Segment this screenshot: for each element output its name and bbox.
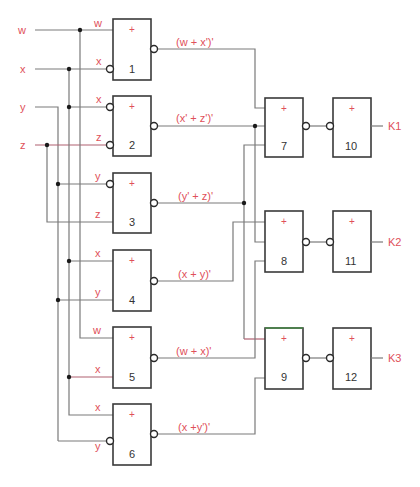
inverter-bubble-icon [303, 355, 310, 362]
svg-text:+: + [349, 103, 355, 114]
inverter-bubble-icon [151, 431, 158, 438]
svg-text:x: x [95, 363, 101, 375]
gate-4-output-label: (x + y)' [178, 268, 211, 280]
gate-11: + 11 K2 [327, 211, 402, 272]
inverter-bubble-icon [151, 355, 158, 362]
inverter-bubble-icon [151, 278, 158, 285]
svg-text:3: 3 [129, 216, 135, 228]
junction-dot [67, 105, 71, 109]
svg-text:+: + [129, 332, 135, 343]
svg-text:+: + [281, 333, 287, 344]
output-label-k2: K2 [388, 236, 401, 248]
svg-text:4: 4 [129, 294, 135, 306]
svg-text:+: + [129, 101, 135, 112]
inverter-bubble-icon [303, 239, 310, 246]
svg-text:z: z [96, 131, 102, 143]
junction-dot [56, 182, 60, 186]
input-z: z [20, 139, 107, 151]
svg-text:11: 11 [345, 255, 356, 267]
inverter-bubble-icon [327, 239, 334, 246]
inverter-bubble-icon [151, 46, 158, 53]
svg-text:w: w [93, 17, 102, 29]
svg-text:+: + [129, 24, 135, 35]
svg-text:6: 6 [129, 448, 135, 460]
gate-4: + 4 x y (x + y)' [95, 247, 211, 311]
svg-text:+: + [129, 255, 135, 266]
gate-10: + 10 K1 [327, 98, 402, 157]
input-label-y: y [20, 101, 26, 113]
gate-5: + 5 w x (w + x)' [92, 324, 211, 388]
gate-5-output-label: (w + x)' [176, 345, 211, 357]
inverter-bubble-icon [327, 123, 334, 130]
inverter-bubble-icon [107, 66, 114, 73]
svg-text:y: y [95, 170, 101, 182]
gate-1-output-label: (w + x')' [176, 36, 214, 48]
junction-dot [56, 298, 60, 302]
output-label-k1: K1 [388, 120, 401, 132]
svg-text:x: x [96, 55, 102, 67]
svg-text:12: 12 [345, 371, 357, 383]
svg-text:7: 7 [281, 140, 287, 152]
inverter-bubble-icon [107, 104, 114, 111]
gate-2: + 2 x z (x' + z')' [96, 93, 213, 156]
inverter-bubble-icon [303, 123, 310, 130]
gate-3: + 3 y z (y' + z)' [95, 170, 213, 233]
svg-text:y: y [95, 286, 101, 298]
svg-text:+: + [281, 103, 287, 114]
svg-text:+: + [129, 409, 135, 420]
gate-6: + 6 x y (x +y')' [95, 401, 210, 465]
junction-dot [67, 259, 71, 263]
logic-circuit-diagram: w x y z + 1 w x [0, 0, 420, 487]
junction-dot [67, 375, 71, 379]
junction-dot [253, 124, 257, 128]
gate-6-output-label: (x +y')' [178, 421, 210, 433]
junction-dot [242, 201, 246, 205]
junction-dot [78, 28, 82, 32]
gate-3-output-label: (y' + z)' [178, 190, 213, 202]
input-label-w: w [17, 24, 26, 36]
junction-dot [45, 143, 49, 147]
svg-text:5: 5 [129, 371, 135, 383]
input-label-z: z [20, 139, 26, 151]
svg-text:x: x [95, 401, 101, 413]
svg-text:+: + [129, 178, 135, 189]
gate-7: + 7 [265, 98, 310, 157]
svg-text:x: x [95, 247, 101, 259]
inverter-bubble-icon [107, 181, 114, 188]
input-x: x [20, 63, 107, 75]
svg-text:w: w [92, 324, 101, 336]
svg-text:1: 1 [129, 63, 135, 75]
gate-9: + 9 [265, 328, 310, 389]
svg-text:z: z [95, 208, 101, 220]
input-label-x: x [20, 63, 26, 75]
output-label-k3: K3 [388, 352, 401, 364]
gate-2-output-label: (x' + z')' [176, 112, 213, 124]
svg-text:+: + [281, 216, 287, 227]
svg-text:+: + [349, 216, 355, 227]
svg-text:9: 9 [281, 371, 287, 383]
junction-dot [67, 67, 71, 71]
svg-text:10: 10 [345, 140, 357, 152]
gate-12: + 12 K3 [327, 328, 402, 389]
inverter-bubble-icon [327, 355, 334, 362]
inverter-bubble-icon [107, 438, 114, 445]
inverter-bubble-icon [107, 142, 114, 149]
svg-text:8: 8 [281, 255, 287, 267]
svg-text:y: y [95, 440, 101, 452]
svg-text:+: + [349, 333, 355, 344]
bus-x [69, 69, 113, 415]
gate-8: + 8 [265, 211, 310, 272]
svg-text:x: x [96, 93, 102, 105]
svg-text:2: 2 [129, 139, 135, 151]
inverter-bubble-icon [151, 123, 158, 130]
inverter-bubble-icon [151, 200, 158, 207]
input-y: y [20, 101, 58, 441]
